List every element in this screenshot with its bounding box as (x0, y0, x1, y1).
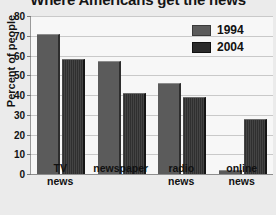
bar[interactable] (98, 61, 121, 174)
y-tick-label-50: 50 (14, 70, 25, 81)
y-tick-label-30: 30 (14, 109, 25, 120)
legend-swatch-icon (192, 25, 211, 36)
bar-group (98, 16, 146, 174)
legend-swatch-icon (192, 42, 211, 53)
bar-chart-figure: Where Americans get the news Percent of … (0, 0, 276, 215)
x-tick-label-line: online (212, 162, 273, 175)
bar[interactable] (62, 59, 85, 174)
x-tick-label-line: radio (151, 162, 212, 175)
bar[interactable] (37, 34, 60, 174)
legend-label: 2004 (217, 40, 244, 54)
y-tick-label-0: 0 (19, 169, 25, 180)
legend-label: 1994 (217, 23, 244, 37)
bar-group (37, 16, 85, 174)
bar[interactable] (158, 83, 181, 174)
chart-legend: 19942004 (192, 23, 244, 54)
legend-entry-1994[interactable]: 1994 (192, 23, 244, 37)
y-tick-mark-10 (27, 154, 31, 155)
x-tick-label: TVnews (30, 162, 91, 188)
y-tick-label-20: 20 (14, 129, 25, 140)
y-tick-label-70: 70 (14, 30, 25, 41)
chart-title: Where Americans get the news (0, 0, 276, 8)
y-tick-mark-30 (27, 115, 31, 116)
y-tick-label-80: 80 (14, 11, 25, 22)
y-tick-mark-20 (27, 135, 31, 136)
y-tick-label-10: 10 (14, 149, 25, 160)
y-tick-mark-50 (27, 75, 31, 76)
legend-entry-2004[interactable]: 2004 (192, 40, 244, 54)
y-tick-mark-70 (27, 36, 31, 37)
x-tick-label-line: TV (30, 162, 91, 175)
x-tick-label-line: newspaper (91, 162, 152, 175)
y-tick-mark-60 (27, 56, 31, 57)
y-tick-label-40: 40 (14, 90, 25, 101)
x-tick-label: newspaper (91, 162, 152, 175)
y-tick-label-60: 60 (14, 50, 25, 61)
x-tick-label: radionews (151, 162, 212, 188)
x-tick-label-line: news (30, 175, 91, 188)
x-tick-label-line: news (151, 175, 212, 188)
x-tick-label-line: news (212, 175, 273, 188)
y-tick-mark-40 (27, 95, 31, 96)
y-tick-mark-80 (27, 16, 31, 17)
x-tick-label: onlinenews (212, 162, 273, 188)
